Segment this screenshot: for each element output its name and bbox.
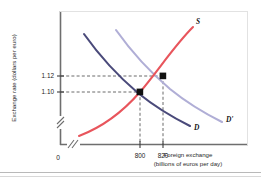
origin-label: 0 [56,154,60,161]
y-tick-label-110: 1.10 [42,88,55,95]
chart-figure: 1.12 1.10 800 820 0 S D D' Exchange rate… [0,0,261,180]
equilibrium-point-new [160,73,167,80]
curve-label-demand-prime: D' [225,115,233,124]
x-axis-units: (billions of euros per day) [154,160,222,167]
equilibrium-point-initial [137,89,144,96]
x-tick-label-800: 800 [135,152,146,159]
figure-bottom-rule [0,172,261,173]
figure-bottom-rule-secondary [0,176,261,177]
y-tick-label-112: 1.12 [42,72,55,79]
y-axis-title: Exchange rate (dollars per euro) [10,34,17,121]
x-axis-title: Foreign exchange [164,151,213,158]
curve-label-demand: D [193,123,200,132]
exchange-rate-chart: 1.12 1.10 800 820 0 S D D' Exchange rate… [0,0,261,180]
plot-background [60,11,248,145]
curve-label-supply: S [196,17,200,26]
